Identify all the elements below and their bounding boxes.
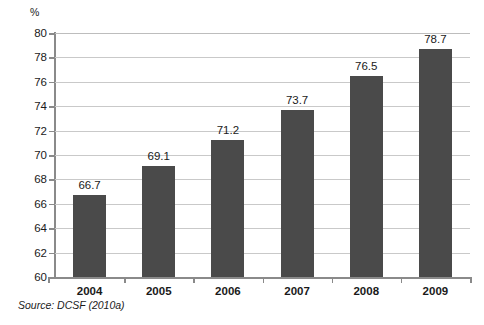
x-axis-tick-mark [332, 277, 334, 283]
gridline [55, 106, 470, 107]
x-axis-line [48, 277, 470, 279]
y-axis-tick-mark [49, 277, 55, 279]
bar[interactable] [419, 49, 452, 277]
y-axis-tick-mark [49, 179, 55, 181]
gridline [55, 131, 470, 132]
gridline [55, 82, 470, 83]
bar-value-label: 76.5 [336, 60, 396, 73]
plot-area [55, 33, 470, 277]
y-axis-tick-label: 60 [3, 271, 47, 283]
x-axis-category-label: 2009 [405, 285, 465, 298]
x-axis-category-label: 2004 [60, 285, 120, 298]
y-axis-tick-label: 68 [3, 173, 47, 185]
x-axis-category-label: 2007 [267, 285, 327, 298]
bar[interactable] [73, 195, 106, 277]
bar[interactable] [350, 76, 383, 277]
bar-value-label: 73.7 [267, 94, 327, 107]
bar-value-label: 66.7 [60, 179, 120, 192]
y-axis-tick-label: 66 [3, 198, 47, 210]
gridline [55, 204, 470, 205]
gridline [55, 155, 470, 156]
bar[interactable] [281, 110, 314, 277]
y-axis-tick-mark [49, 106, 55, 108]
y-axis-tick-label: 74 [3, 100, 47, 112]
bar[interactable] [142, 166, 175, 277]
y-axis-tick-mark [49, 82, 55, 84]
bar-value-label: 71.2 [198, 124, 258, 137]
x-axis-tick-mark [193, 277, 195, 283]
source-note: Source: DCSF (2010a) [18, 299, 125, 312]
gridline [55, 57, 470, 58]
bar[interactable] [211, 140, 244, 277]
bar-value-label: 78.7 [405, 33, 465, 46]
y-axis-tick-mark [49, 131, 55, 133]
y-axis-tick-label: 64 [3, 222, 47, 234]
y-axis-tick-label: 62 [3, 247, 47, 259]
y-axis-tick-mark [49, 228, 55, 230]
x-axis-tick-mark [48, 277, 50, 283]
bar-chart-figure: % 8078767472706866646260 Source: DCSF (2… [0, 0, 484, 325]
x-axis-tick-mark [124, 277, 126, 283]
x-axis-category-label: 2006 [198, 285, 258, 298]
y-axis-tick-label: 76 [3, 76, 47, 88]
y-axis-tick-mark [49, 155, 55, 157]
x-axis-category-label: 2005 [129, 285, 189, 298]
bar-value-label: 69.1 [129, 150, 189, 163]
y-axis-tick-mark [49, 204, 55, 206]
x-axis-tick-mark [263, 277, 265, 283]
gridline [55, 253, 470, 254]
y-axis-tick-label: 72 [3, 125, 47, 137]
y-axis-tick-mark [49, 253, 55, 255]
gridline [55, 228, 470, 229]
y-axis-tick-label: 80 [3, 27, 47, 39]
y-axis-tick-mark [49, 33, 55, 35]
y-axis-tick-mark [49, 57, 55, 59]
y-axis-tick-labels: 8078767472706866646260 [0, 0, 47, 325]
x-axis-tick-mark [401, 277, 403, 283]
y-axis-tick-label: 78 [3, 51, 47, 63]
x-axis-category-label: 2008 [336, 285, 396, 298]
x-axis-tick-mark [470, 277, 472, 283]
y-axis-tick-label: 70 [3, 149, 47, 161]
